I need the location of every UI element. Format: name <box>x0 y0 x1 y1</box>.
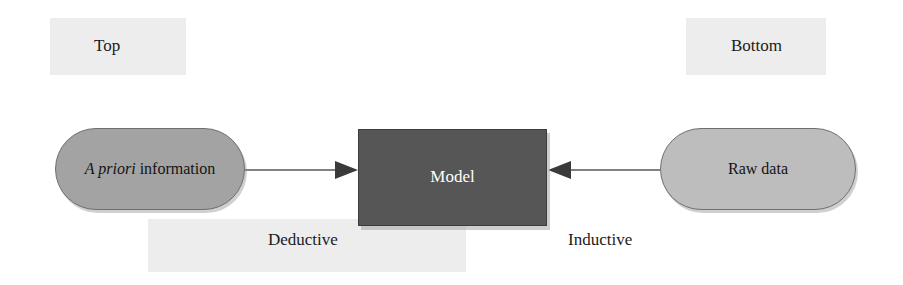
caption-inductive: Inductive <box>568 231 632 248</box>
node-model-label: Model <box>430 168 474 187</box>
edge-inductive <box>548 161 660 179</box>
caption-bottom: Bottom <box>731 37 782 54</box>
node-apriori-label: A priori information <box>85 160 215 178</box>
edge-deductive <box>245 161 358 179</box>
caption-deductive: Deductive <box>268 231 338 248</box>
inductive-arrowhead-icon <box>548 161 571 179</box>
node-model[interactable]: Model <box>358 129 547 226</box>
node-raw-data[interactable]: Raw data <box>660 128 856 210</box>
diagram-canvas: A priori information Model Raw data Top … <box>0 0 903 285</box>
caption-top: Top <box>94 37 120 54</box>
node-raw-data-label: Raw data <box>728 160 788 178</box>
deductive-arrowhead-icon <box>335 161 358 179</box>
node-apriori-label-rest: information <box>136 160 216 177</box>
node-apriori-information[interactable]: A priori information <box>55 128 245 210</box>
node-apriori-label-italic: A priori <box>85 160 136 177</box>
